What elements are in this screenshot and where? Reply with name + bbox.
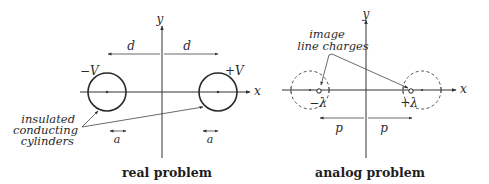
distance-left-label: p — [335, 121, 343, 135]
real-x-axis-label: x — [254, 84, 261, 98]
radius-left-label: a — [114, 133, 121, 146]
real-problem-caption: real problem — [122, 165, 212, 180]
radius-right-label: a — [207, 133, 214, 146]
distance-left-label: d — [127, 39, 135, 53]
y-axis-label: y — [156, 12, 164, 26]
distance-right-label: p — [380, 121, 388, 135]
left-line-charge — [317, 89, 321, 93]
annotation-pointer-right — [332, 54, 408, 88]
annotation-pointer-left — [321, 54, 332, 85]
left-cylinder-center — [106, 91, 108, 93]
right-potential-label: +V — [225, 64, 245, 78]
right-line-charge — [409, 89, 413, 93]
right-charge-label: +λ — [400, 96, 418, 110]
right-cylinder-center — [217, 91, 219, 93]
left-potential-label: −V — [80, 64, 100, 78]
left-charge-label: −λ — [309, 96, 327, 110]
annotation-line-3: cylinders — [21, 134, 74, 148]
analog-problem-caption: analog problem — [315, 165, 425, 180]
distance-right-label: d — [183, 39, 191, 53]
analog-problem-panel: y x −λ +λ image line charges p p analog … — [282, 7, 467, 180]
x-axis-label: x — [460, 82, 467, 96]
left-center-dot — [309, 89, 311, 91]
diagram-canvas: y d d −V +V insulated conducting cylinde… — [0, 0, 489, 184]
right-center-dot — [421, 89, 423, 91]
y-axis-label: y — [362, 7, 370, 21]
annotation-line-2: line charges — [297, 39, 369, 53]
real-problem-panel: y d d −V +V insulated conducting cylinde… — [13, 12, 250, 180]
